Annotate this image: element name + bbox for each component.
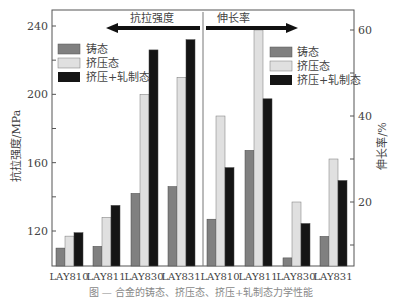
x-tick-label: LAY830	[124, 271, 163, 282]
bar	[207, 219, 216, 266]
x-tick-label: LAY831	[161, 271, 200, 282]
bar	[263, 99, 272, 266]
right-y-axis-label: 伸长率/%	[375, 122, 389, 169]
bar	[320, 236, 329, 266]
legend-label-cast: 铸态	[86, 42, 108, 56]
left-y-axis-label: 抗拉强度/MPa	[9, 109, 23, 182]
arrow-left-icon	[106, 23, 118, 33]
left-tick-label: 160	[27, 157, 48, 170]
bar	[186, 40, 195, 266]
bar	[111, 205, 120, 266]
bar	[301, 224, 310, 267]
bar	[65, 236, 74, 266]
x-tick-label: LAY811	[238, 271, 277, 282]
x-tick-label: LAY830	[276, 271, 315, 282]
left-tick-label: 240	[27, 20, 48, 33]
x-tick-label: LAY831	[313, 271, 352, 282]
bar	[149, 50, 158, 266]
legend-label-rolled: 挤压+轧制态	[86, 70, 150, 84]
bar	[283, 258, 292, 266]
legend-swatch-cast	[270, 47, 292, 57]
left-tick-label: 200	[27, 88, 48, 101]
bar	[74, 233, 83, 266]
legend-swatch-rolled	[270, 75, 292, 85]
x-tick-label: LAY810	[200, 271, 239, 282]
x-tick-label: LAY811	[86, 271, 125, 282]
bar	[329, 159, 338, 266]
bar	[140, 94, 149, 266]
bar	[254, 30, 263, 266]
legend-label-extruded: 挤压态	[86, 56, 119, 70]
bar	[102, 217, 111, 266]
arrow-right-icon	[286, 23, 298, 33]
tensile-section-title: 抗拉强度	[130, 11, 174, 25]
legend-label-cast: 铸态	[297, 45, 319, 59]
legend-left: 铸态 挤压态 挤压+轧制态	[58, 42, 150, 84]
left-tick-label: 120	[27, 225, 48, 238]
right-tick-label: 60	[358, 24, 372, 37]
legend-label-extruded: 挤压态	[297, 59, 330, 73]
bar	[225, 168, 234, 266]
bar	[245, 150, 254, 266]
bar	[177, 77, 186, 266]
bar	[93, 246, 102, 266]
figure-caption: 图 — 合金的铸态、挤压态、挤压+轧制态力学性能	[0, 284, 402, 299]
bar	[131, 193, 140, 266]
legend-swatch-cast	[58, 44, 80, 54]
bar	[168, 187, 177, 266]
right-tick-label: 20	[358, 196, 372, 209]
legend-swatch-extruded	[58, 58, 80, 68]
bar	[338, 181, 347, 267]
legend-swatch-rolled	[58, 72, 80, 82]
legend-label-rolled: 挤压+轧制态	[297, 73, 361, 87]
legend-swatch-extruded	[270, 61, 292, 71]
bar	[292, 202, 301, 266]
x-tick-label: LAY810	[49, 271, 88, 282]
right-tick-label: 40	[358, 110, 372, 123]
bar	[216, 116, 225, 266]
elongation-section-title: 伸长率	[217, 11, 250, 25]
bar	[56, 248, 65, 266]
legend-right: 铸态 挤压态 挤压+轧制态	[270, 45, 361, 87]
